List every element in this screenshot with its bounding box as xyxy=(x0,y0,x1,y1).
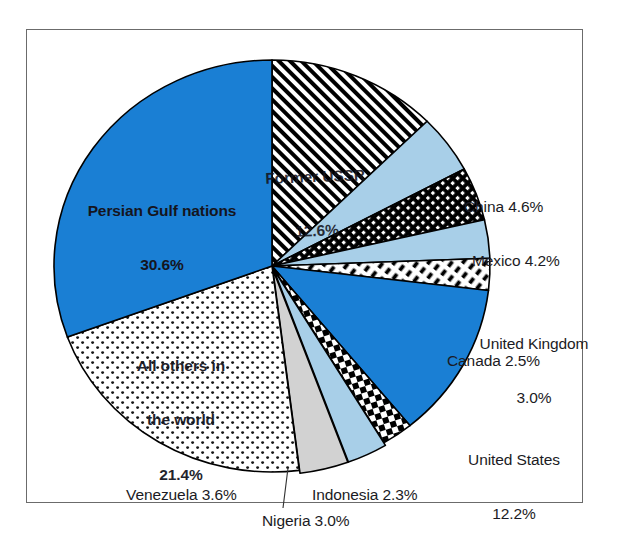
slice-label-former-ussr-line1: Former USSR xyxy=(254,165,377,188)
slice-label-former-ussr: Former USSR 12.6% xyxy=(252,129,379,279)
slice-label-former-ussr-line2: 12.6% xyxy=(256,220,379,243)
slice-label-united-kingdom-line2: 3.0% xyxy=(455,389,613,407)
pie-chart-figure: Persian Gulf nations 30.6% Former USSR 1… xyxy=(0,0,637,558)
slice-label-mexico: Mexico 4.2% xyxy=(472,252,560,270)
slice-label-canada: Canada 2.5% xyxy=(447,352,540,370)
slice-label-united-states-line2: 12.2% xyxy=(438,505,590,523)
slice-label-united-kingdom-line1: United Kingdom xyxy=(455,335,613,353)
slice-label-venezuela: Venezuela 3.6% xyxy=(126,486,237,504)
slice-label-persian-gulf: Persian Gulf nations 30.6% xyxy=(72,165,252,311)
slice-label-persian-gulf-line1: Persian Gulf nations xyxy=(72,202,252,220)
slice-label-all-others-line1: All others in xyxy=(113,357,249,375)
slice-label-united-states: United States 12.2% xyxy=(438,414,590,558)
slice-label-indonesia: Indonesia 2.3% xyxy=(312,486,417,504)
leader-line-nigeria xyxy=(283,468,288,508)
slice-label-persian-gulf-line2: 30.6% xyxy=(72,256,252,274)
slice-label-china: China 4.6% xyxy=(464,198,543,216)
slice-label-united-states-line1: United States xyxy=(438,451,590,469)
slice-label-nigeria: Nigeria 3.0% xyxy=(262,512,350,530)
slice-label-all-others-line2: the world xyxy=(113,411,249,429)
slice-label-all-others-line3: 21.4% xyxy=(113,466,249,484)
